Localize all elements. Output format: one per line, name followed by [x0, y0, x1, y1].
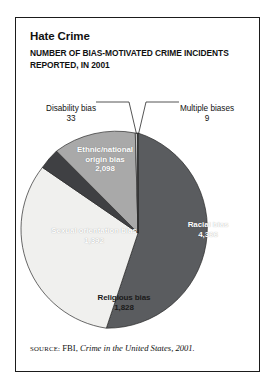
source-work-title: Crime in the United States, 2001. [80, 343, 195, 353]
callout-multiple-value: 9 [164, 114, 250, 124]
figure-panel: Hate Crime NUMBER OF BIAS-MOTIVATED CRIM… [15, 17, 260, 372]
slice-label-sexual-orientation: Sexual orientation bias 1,392 [18, 226, 170, 245]
slice-label-ethnic-value: 2,098 [40, 164, 170, 174]
slice-label-ethnic-line1: Ethnic/national [40, 145, 170, 155]
source-publisher: FBI, [62, 343, 78, 353]
callout-multiple-label: Multiple biases [164, 104, 250, 114]
slice-label-racial-value: 4,366 [164, 230, 252, 240]
slice-label-religious: Religious bias 1,828 [64, 293, 184, 312]
callout-disability-value: 33 [28, 114, 114, 124]
source-note: SOURCE: FBI, Crime in the United States,… [30, 343, 248, 354]
callout-disability: Disability bias 33 [28, 104, 114, 124]
slice-label-ethnic: Ethnic/national origin bias 2,098 [40, 145, 170, 174]
slice-label-religious-text: Religious bias [64, 293, 184, 303]
callout-disability-label: Disability bias [28, 104, 114, 114]
pie-chart: Disability bias 33 Multiple biases 9 Eth… [16, 18, 259, 371]
slice-label-racial: Racial bias 4,366 [164, 220, 252, 239]
source-prefix: SOURCE: [30, 345, 60, 352]
slice-label-racial-text: Racial bias [164, 220, 252, 230]
slice-label-ethnic-line2: origin bias [40, 155, 170, 165]
slice-label-religious-value: 1,828 [64, 303, 184, 313]
slice-label-sexual-text: Sexual orientation bias [18, 226, 170, 236]
pie-chart-svg [16, 18, 259, 370]
callout-multiple: Multiple biases 9 [164, 104, 250, 124]
slice-label-sexual-value: 1,392 [18, 236, 170, 246]
